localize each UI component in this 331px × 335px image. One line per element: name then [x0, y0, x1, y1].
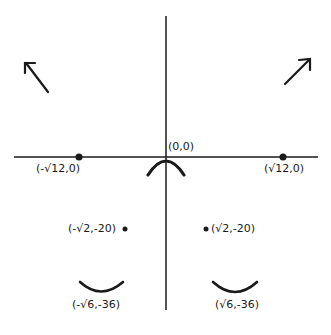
inflection-left-label: (-√2,-20): [68, 223, 116, 234]
origin-label: (0,0): [168, 141, 194, 152]
local-min-left-arc: [80, 282, 123, 292]
local-min-right-arc: [213, 282, 257, 292]
x-intercept-right-label: (√12,0): [264, 163, 304, 174]
arrow-up-right-icon: [285, 59, 310, 84]
x-intercept-left-dot: [76, 154, 83, 161]
x-intercept-right-dot: [280, 154, 287, 161]
local-min-right-label: (√6,-36): [215, 299, 259, 310]
arrow-up-left-icon: [25, 63, 48, 92]
local-min-left-label: (-√6,-36): [72, 299, 120, 310]
inflection-right-dot: [204, 227, 209, 232]
inflection-left-dot: [123, 227, 128, 232]
x-intercept-left-label: (-√12,0): [36, 163, 80, 174]
inflection-right-label: (√2,-20): [211, 223, 255, 234]
